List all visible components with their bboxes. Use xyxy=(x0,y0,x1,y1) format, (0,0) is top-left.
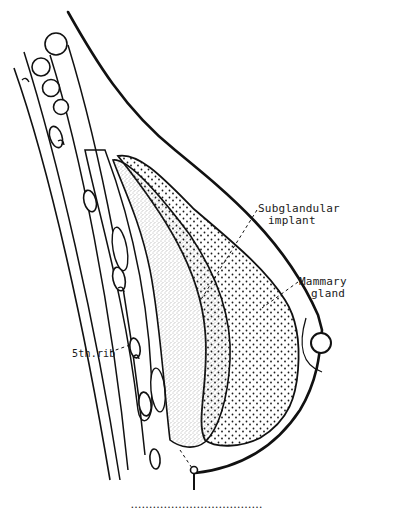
figure-caption: ……………………………… xyxy=(0,498,393,508)
chest-wall-line-4 xyxy=(68,45,145,455)
incision-leader-line xyxy=(180,450,192,468)
rib-section xyxy=(43,80,60,97)
rib-section xyxy=(81,189,98,213)
gland-label: Mammary gland xyxy=(299,276,347,300)
chest-wall-line-2 xyxy=(24,52,120,480)
gland-label-line2: gland xyxy=(299,288,347,300)
rib-section xyxy=(137,391,152,416)
incision-marker xyxy=(191,467,198,474)
implant-label-line2: implant xyxy=(258,215,340,227)
rib-section xyxy=(54,100,69,115)
implant-label: Subglandular implant xyxy=(258,203,340,227)
rib-label: 5th.rib xyxy=(72,348,116,360)
rib-section xyxy=(45,33,67,55)
rib-section xyxy=(47,125,65,150)
rib-section xyxy=(149,449,161,470)
vessel-mark xyxy=(22,78,29,82)
nipple xyxy=(311,333,331,353)
chest-wall-line-1 xyxy=(14,68,110,480)
rib-section xyxy=(32,58,50,76)
